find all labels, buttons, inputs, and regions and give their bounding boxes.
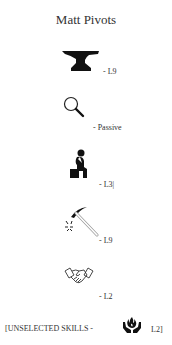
page-title: Matt Pivots xyxy=(0,12,172,28)
thinker-icon xyxy=(67,149,89,183)
skill-level: - Passive xyxy=(93,123,122,132)
skill-level: - L9 xyxy=(103,67,117,76)
skill-level: - L2 xyxy=(99,292,113,301)
handshake-icon xyxy=(64,266,94,290)
skill-row-pickaxe: - L9 xyxy=(0,205,172,245)
skill-level: - L3| xyxy=(99,180,114,189)
pickaxe-icon xyxy=(63,205,99,241)
skill-row-magnifier: - Passive xyxy=(0,96,172,136)
skill-level: - L9 xyxy=(99,236,113,245)
magnifier-icon xyxy=(63,96,85,122)
skill-row-handshake: - L2 xyxy=(0,266,172,302)
anvil-icon xyxy=(62,50,100,76)
fire-hands-icon xyxy=(122,316,142,336)
unselected-skills-label: [UNSELECTED SKILLS - xyxy=(5,324,93,333)
unselected-skills-level: L2] xyxy=(151,325,163,334)
skill-row-anvil: - L9 xyxy=(0,50,172,80)
skill-row-thinker: - L3| xyxy=(0,149,172,189)
